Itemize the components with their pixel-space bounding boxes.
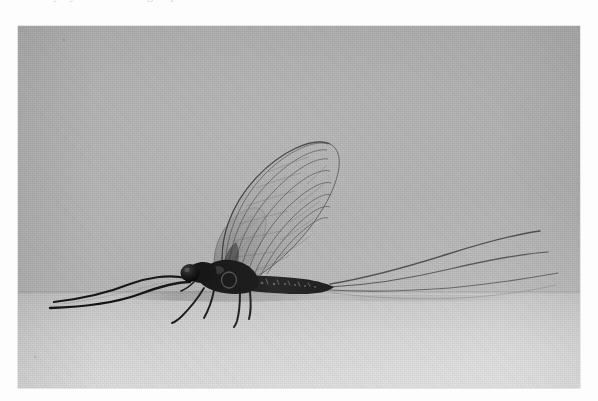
dust-speck: [63, 39, 65, 41]
photograph: [18, 26, 580, 388]
cropped-caption-label: a mayfly dun subimago spinner: [26, 0, 207, 2]
cercus-group: [328, 231, 558, 299]
dust-speck: [34, 356, 36, 358]
forewing: [222, 142, 339, 281]
scanned-page: a mayfly dun subimago spinner: [0, 0, 598, 401]
cercus-lower: [328, 273, 558, 291]
cropped-caption-text: a mayfly dun subimago spinner: [0, 0, 598, 7]
mayfly-subject: [18, 26, 580, 388]
compound-eye: [181, 264, 200, 282]
eye-highlight: [184, 268, 189, 272]
